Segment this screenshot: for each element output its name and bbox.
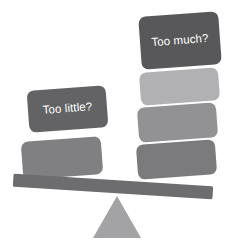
right-stack-block-2	[139, 67, 220, 106]
right-stack-label-block: Too much?	[138, 11, 222, 70]
right-stack-label-text: Too much?	[151, 33, 209, 49]
right-stack-block-4	[136, 139, 217, 180]
left-stack-block-2	[21, 136, 104, 180]
balance-scale-illustration: Too much? Too little?	[0, 0, 229, 241]
right-stack-block-3	[137, 102, 218, 143]
left-stack-label-block: Too little?	[27, 85, 109, 133]
fulcrum-triangle	[93, 196, 141, 238]
left-stack-label-text: Too little?	[42, 101, 92, 116]
